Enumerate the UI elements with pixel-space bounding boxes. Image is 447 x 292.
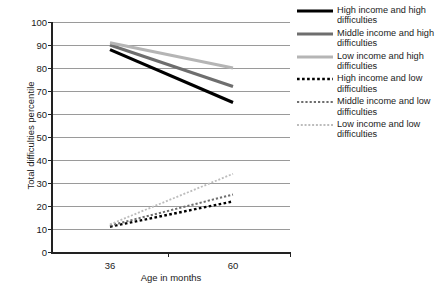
legend-label: High income and low difficulties xyxy=(337,72,447,94)
plot-area: 0102030405060708090100 3660 xyxy=(52,22,290,252)
legend-label: Low income and high difficulties xyxy=(337,50,447,72)
legend-item[interactable]: Low income and high difficulties xyxy=(297,50,447,72)
y-tick-label: 50 xyxy=(36,132,47,143)
y-tick-label: 60 xyxy=(36,109,47,120)
legend-swatch-icon xyxy=(297,50,333,64)
x-tick-mark xyxy=(168,252,169,257)
chart-legend: High income and high difficultiesMiddle … xyxy=(297,4,447,141)
chart-figure: Total difficulties percentile 0102030405… xyxy=(0,0,447,292)
x-axis-line xyxy=(51,252,291,254)
legend-label: Middle income and low difficulties xyxy=(337,95,447,117)
legend-item[interactable]: Middle income and high difficulties xyxy=(297,27,447,49)
legend-item[interactable]: High income and high difficulties xyxy=(297,4,447,26)
y-tick-label: 90 xyxy=(36,40,47,51)
legend-label: Low income and low difficulties xyxy=(337,118,447,140)
y-tick-label: 100 xyxy=(31,17,47,28)
y-tick-label: 20 xyxy=(36,201,47,212)
y-tick-label: 80 xyxy=(36,63,47,74)
x-tick-label: 36 xyxy=(105,260,116,271)
x-tick-mark xyxy=(290,252,291,257)
y-tick-label: 10 xyxy=(36,224,47,235)
legend-swatch-icon xyxy=(297,95,333,109)
series-lines xyxy=(52,22,290,252)
y-tick-label: 40 xyxy=(36,155,47,166)
legend-swatch-icon xyxy=(297,27,333,41)
legend-swatch-icon xyxy=(297,72,333,86)
y-tick-label: 30 xyxy=(36,178,47,189)
y-tick-label: 0 xyxy=(42,247,47,258)
series-line xyxy=(110,195,233,226)
legend-item[interactable]: High income and low difficulties xyxy=(297,72,447,94)
legend-label: Middle income and high difficulties xyxy=(337,27,447,49)
y-tick-label: 70 xyxy=(36,86,47,97)
y-axis-title: Total difficulties percentile xyxy=(25,36,36,236)
x-tick-label: 60 xyxy=(228,260,239,271)
series-line xyxy=(110,174,233,225)
legend-swatch-icon xyxy=(297,4,333,18)
series-line xyxy=(110,50,233,103)
legend-item[interactable]: Low income and low difficulties xyxy=(297,118,447,140)
legend-swatch-icon xyxy=(297,118,333,132)
legend-label: High income and high difficulties xyxy=(337,4,447,26)
legend-item[interactable]: Middle income and low difficulties xyxy=(297,95,447,117)
x-axis-title: Age in months xyxy=(52,272,290,283)
series-line xyxy=(110,201,233,226)
